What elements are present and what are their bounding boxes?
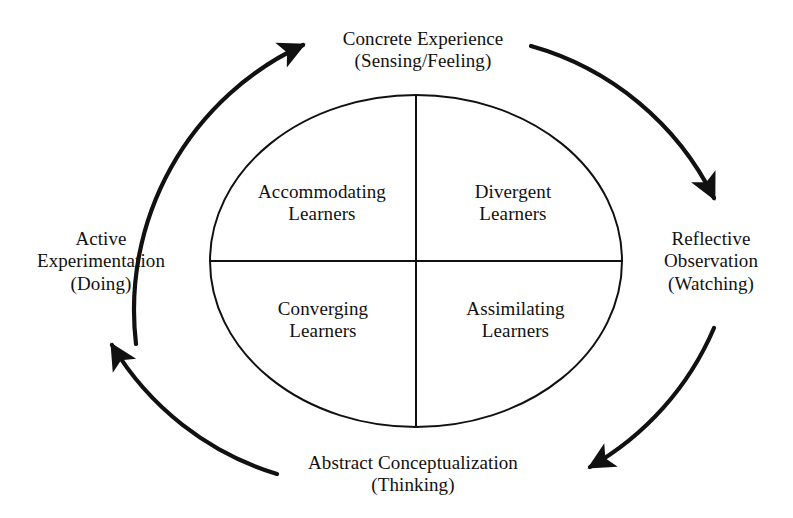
arrow-right-to-bottom [590, 328, 714, 467]
quadrant-label-line2: Learners [428, 320, 603, 342]
stage-label-line1: Concrete Experience [318, 28, 528, 50]
stage-label-abstract-conceptualization: Abstract Conceptualization (Thinking) [288, 452, 538, 497]
stage-label-concrete-experience: Concrete Experience (Sensing/Feeling) [318, 28, 528, 73]
stage-label-line2: (Thinking) [288, 474, 538, 496]
quadrant-label-line2: Learners [232, 203, 412, 225]
stage-label-line1: Abstract Conceptualization [288, 452, 538, 474]
quadrant-label-line1: Assimilating [428, 298, 603, 320]
stage-label-line2: Observation [636, 250, 786, 272]
quadrant-label-divergent-learners: Divergent Learners [428, 181, 598, 226]
quadrant-label-converging-learners: Converging Learners [238, 298, 408, 343]
arrow-top-to-right [531, 46, 714, 198]
stage-label-line2: Experimentation [6, 250, 196, 272]
arrow-bottom-to-left [112, 345, 277, 474]
stage-label-active-experimentation: Active Experimentation (Doing) [6, 228, 196, 295]
quadrant-label-line1: Divergent [428, 181, 598, 203]
kolb-learning-cycle-diagram: Concrete Experience (Sensing/Feeling) Re… [0, 0, 793, 518]
quadrant-label-assimilating-learners: Assimilating Learners [428, 298, 603, 343]
stage-label-line1: Reflective [636, 228, 786, 250]
stage-label-line3: (Doing) [6, 273, 196, 295]
stage-label-line1: Active [6, 228, 196, 250]
quadrant-label-line1: Accommodating [232, 181, 412, 203]
quadrant-label-line2: Learners [428, 203, 598, 225]
stage-label-reflective-observation: Reflective Observation (Watching) [636, 228, 786, 295]
quadrant-label-accommodating-learners: Accommodating Learners [232, 181, 412, 226]
stage-label-line3: (Watching) [636, 273, 786, 295]
quadrant-label-line1: Converging [238, 298, 408, 320]
stage-label-line2: (Sensing/Feeling) [318, 50, 528, 72]
quadrant-label-line2: Learners [238, 320, 408, 342]
